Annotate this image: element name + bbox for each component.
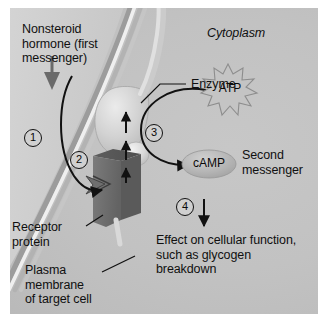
cytoplasm-label: Cytoplasm (207, 26, 265, 41)
step-3-marker: 3 (145, 124, 163, 142)
cell-signaling-diagram: ATP cAMP Nonsteroid hormone (first messe… (0, 0, 333, 329)
enzyme-label: Enzyme (191, 77, 236, 92)
cell-illustration-panel: ATP cAMP Nonsteroid hormone (first messe… (10, 8, 318, 314)
step-2-marker: 2 (70, 151, 88, 169)
second-messenger-label: Second messenger (242, 148, 312, 177)
receptor-protein-shape (86, 149, 141, 244)
camp-label: cAMP (186, 156, 232, 170)
plasma-membrane-label: Plasma membrane of target cell (25, 263, 125, 307)
step-1-marker: 1 (24, 129, 42, 147)
effect-label: Effect on cellular function, such as gly… (156, 233, 316, 277)
hormone-label: Nonsteroid hormone (first messenger) (22, 22, 132, 66)
receptor-protein-label: Receptor protein (12, 220, 92, 249)
step-4-marker: 4 (176, 198, 194, 216)
